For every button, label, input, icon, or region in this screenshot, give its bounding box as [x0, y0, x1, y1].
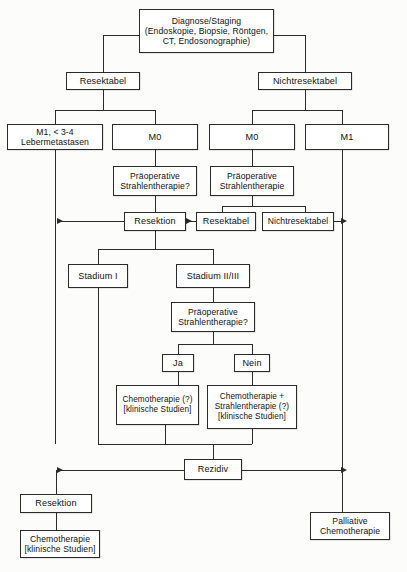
flowchart-canvas: Diagnose/Staging (Endoskopie, Biopsie, R… — [0, 0, 407, 572]
node-diagnose-staging[interactable]: Diagnose/Staging (Endoskopie, Biopsie, R… — [139, 9, 274, 53]
node-praeoperative-strahlentherapie-right[interactable]: Präoperative Strahlentherapie — [210, 166, 294, 196]
node-rezidiv[interactable]: Rezidiv — [184, 459, 242, 480]
node-m1-right[interactable]: M1 — [305, 124, 389, 150]
node-chemotherapie-fragezeichen[interactable]: Chemotherapie (?) [klinische Studien] — [116, 385, 199, 425]
node-m0-left[interactable]: M0 — [112, 124, 198, 150]
node-resektabel-top[interactable]: Resektabel — [66, 72, 140, 90]
node-palliative-chemotherapie[interactable]: Palliative Chemotherapie — [310, 512, 390, 540]
node-resektion-mid[interactable]: Resektion — [124, 212, 186, 231]
node-ja[interactable]: Ja — [162, 354, 194, 372]
node-stadium-2-3[interactable]: Stadium II/III — [176, 264, 250, 288]
node-praeoperative-strahlentherapie-lower[interactable]: Präoperative Strahlentherapie? — [171, 302, 255, 332]
node-chemotherapie-strahlentherapie-fragezeichen[interactable]: Chemotherapie + Strahlentherapie (?) [kl… — [207, 385, 297, 429]
node-praeoperative-strahlentherapie-left[interactable]: Präoperative Strahlentherapie? — [113, 166, 197, 196]
node-resektabel-mid[interactable]: Resektabel — [196, 212, 256, 231]
node-chemotherapie-bottom[interactable]: Chemotherapie [klinische Studien] — [20, 530, 100, 558]
node-nichtresektabel-mid[interactable]: Nichtresektabel — [262, 212, 334, 231]
node-nichtresektabel-top[interactable]: Nichtresektabel — [258, 72, 352, 90]
node-m0-right[interactable]: M0 — [209, 124, 295, 150]
node-resektion-bottom[interactable]: Resektion — [20, 494, 92, 513]
node-nein[interactable]: Nein — [234, 354, 270, 372]
node-m1-lebermetastasen[interactable]: M1, < 3-4 Lebermetastasen — [7, 124, 103, 150]
node-stadium-1[interactable]: Stadium I — [68, 264, 128, 288]
